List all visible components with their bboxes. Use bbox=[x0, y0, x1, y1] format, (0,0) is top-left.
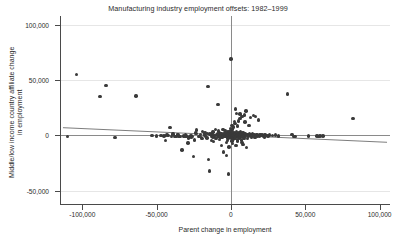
x-axis-tick-label: 50,000 bbox=[295, 211, 315, 218]
data-point bbox=[321, 134, 324, 137]
x-axis-tick-label: 0 bbox=[229, 211, 233, 218]
data-point bbox=[194, 132, 197, 135]
y-axis-label-line2: in employment bbox=[16, 12, 24, 212]
data-point bbox=[253, 136, 256, 139]
data-point bbox=[247, 124, 250, 127]
data-point bbox=[226, 139, 229, 142]
data-point bbox=[155, 134, 158, 137]
data-point bbox=[227, 145, 230, 148]
x-axis-tick bbox=[82, 205, 83, 210]
data-point bbox=[234, 107, 237, 110]
data-point bbox=[150, 134, 153, 137]
chart-title: Manufacturing industry employment offset… bbox=[0, 4, 396, 13]
y-axis-tick-label: -50,000 bbox=[27, 187, 49, 194]
data-point bbox=[176, 133, 179, 136]
data-point bbox=[293, 135, 296, 138]
data-point bbox=[227, 172, 230, 175]
x-axis-tick bbox=[231, 205, 232, 210]
data-point bbox=[229, 57, 232, 60]
x-axis-tick-label: -100,000 bbox=[69, 211, 95, 218]
data-point bbox=[220, 144, 223, 147]
data-point bbox=[277, 134, 280, 137]
linear-fit-line bbox=[60, 16, 390, 204]
y-axis-tick-label: 50,000 bbox=[29, 77, 49, 84]
x-axis-tick-label: 100,000 bbox=[368, 211, 392, 218]
y-axis-label: Middle/low income country affiliate chan… bbox=[8, 12, 25, 212]
y-axis-tick bbox=[55, 80, 60, 81]
data-point bbox=[232, 125, 235, 128]
data-point bbox=[243, 113, 246, 116]
x-axis-tick-label: -50,000 bbox=[145, 211, 167, 218]
data-point bbox=[351, 117, 354, 120]
data-point bbox=[244, 109, 247, 112]
data-point bbox=[216, 103, 219, 106]
data-point bbox=[134, 94, 137, 97]
data-point bbox=[205, 136, 208, 139]
data-point bbox=[307, 134, 310, 137]
data-point bbox=[238, 112, 241, 115]
data-point bbox=[236, 124, 239, 127]
data-point bbox=[193, 138, 196, 141]
plot-area bbox=[60, 16, 390, 204]
y-axis-line bbox=[60, 16, 61, 204]
data-point bbox=[221, 128, 224, 131]
data-point bbox=[257, 118, 260, 121]
x-axis-tick bbox=[305, 205, 306, 210]
scatter-plot-figure: Manufacturing industry employment offset… bbox=[0, 0, 396, 247]
x-axis-tick bbox=[380, 205, 381, 210]
data-point bbox=[230, 139, 233, 142]
data-point bbox=[286, 92, 289, 95]
data-point bbox=[187, 136, 190, 139]
data-point bbox=[186, 141, 189, 144]
data-point bbox=[234, 144, 237, 147]
data-point bbox=[211, 130, 214, 133]
y-axis-tick-label: 0 bbox=[45, 132, 49, 139]
data-point bbox=[219, 132, 222, 135]
x-axis-line bbox=[60, 204, 390, 205]
y-axis-tick bbox=[55, 135, 60, 136]
y-axis-label-line1: Middle/low income country affiliate chan… bbox=[8, 12, 16, 212]
data-point bbox=[208, 169, 211, 172]
data-point bbox=[263, 135, 266, 138]
data-point bbox=[222, 150, 225, 153]
data-point bbox=[180, 148, 183, 151]
x-axis-label: Parent change in employment bbox=[60, 226, 390, 233]
data-point bbox=[113, 136, 116, 139]
y-axis-tick-label: 100,000 bbox=[25, 21, 49, 28]
y-axis-tick bbox=[55, 25, 60, 26]
x-axis-tick bbox=[157, 205, 158, 210]
data-point bbox=[243, 120, 246, 123]
y-axis-tick bbox=[55, 191, 60, 192]
